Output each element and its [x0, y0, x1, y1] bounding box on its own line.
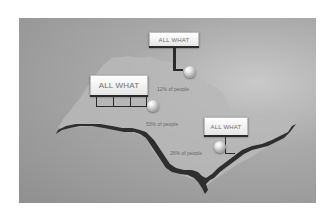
- billboard-top-sign: ALL WHAT: [149, 32, 199, 47]
- billboard-right-arm: [225, 153, 235, 154]
- marker-pin-top[interactable]: [184, 66, 196, 78]
- billboard-left-sign: ALL WHAT: [90, 75, 148, 96]
- billboard-top-arm: [173, 69, 183, 71]
- billboard-right-rail: [204, 135, 248, 137]
- marker-pin-left[interactable]: [147, 100, 159, 112]
- marker-label-top: 12% of people: [157, 86, 189, 92]
- billboard-top-post: [173, 48, 176, 70]
- billboard-left-base: [96, 106, 147, 107]
- billboard-right-sign: ALL WHAT: [204, 117, 248, 136]
- marker-pin-right[interactable]: [214, 141, 226, 153]
- marker-label-left: 53% of people: [146, 121, 178, 127]
- billboard-left-rail: [90, 95, 148, 97]
- marker-label-right: 26% of people: [170, 150, 202, 156]
